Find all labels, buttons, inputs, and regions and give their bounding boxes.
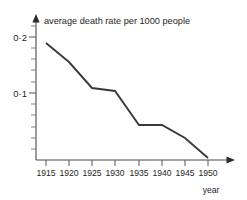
chart-title: average death rate per 1000 people (44, 16, 190, 26)
x-tick-label-1925: 1925 (82, 168, 101, 178)
x-axis-arrow-icon (227, 156, 236, 163)
x-tick-label-1945: 1945 (175, 168, 194, 178)
chart-canvas: 0·2 0·1 1915 1920 1925 1930 1935 1940 19… (0, 0, 247, 200)
x-axis-caption: year (203, 185, 220, 195)
y-tick-label-0-1: 0·1 (13, 88, 27, 99)
y-axis-major-ticks (29, 37, 36, 93)
line-chart: 0·2 0·1 1915 1920 1925 1930 1935 1940 19… (0, 0, 247, 200)
x-axis-major-ticks (46, 160, 208, 166)
y-tick-label-0-2: 0·2 (13, 32, 27, 43)
y-axis-minor-ticks (31, 26, 36, 149)
x-tick-label-1920: 1920 (59, 168, 78, 178)
x-tick-label-1935: 1935 (129, 168, 148, 178)
y-axis-arrow-icon (32, 14, 39, 23)
x-tick-label-1940: 1940 (152, 168, 171, 178)
x-tick-label-1950: 1950 (198, 168, 217, 178)
data-series-line (46, 43, 208, 158)
x-tick-label-1915: 1915 (36, 168, 55, 178)
x-tick-label-1930: 1930 (105, 168, 124, 178)
